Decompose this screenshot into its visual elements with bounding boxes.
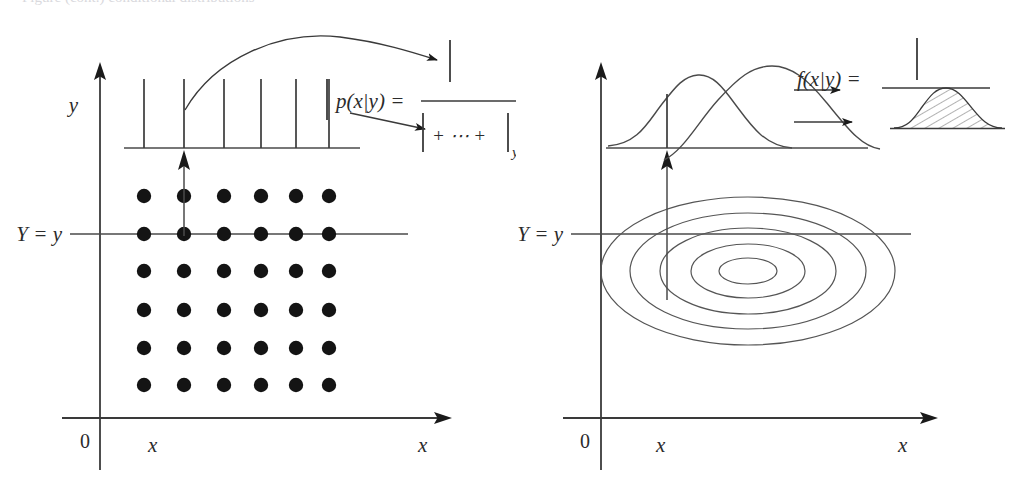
contour-level-3 <box>660 228 836 314</box>
formula-lhs-continuous: f(x|y) = <box>797 67 861 91</box>
conditioning-label-discrete: Y = y <box>16 222 62 246</box>
x-inner-label-discrete: x <box>147 433 158 457</box>
lift-arrow-continuous <box>661 150 673 300</box>
figure-root: Figure (cont.) conditional distributions… <box>0 0 1032 499</box>
contour-level-4 <box>630 213 866 329</box>
denominator-callout-discrete <box>350 113 425 129</box>
conditional-pmf-discrete <box>124 79 360 148</box>
formula-discrete: p(x|y) = + ⋯ + y <box>327 40 516 160</box>
contour-level-5 <box>601 197 895 345</box>
contours-continuous <box>601 197 895 345</box>
contour-level-2 <box>691 244 805 298</box>
x-axis-label-discrete: x <box>417 433 428 457</box>
denominator-middle-discrete: + ⋯ + <box>432 125 486 146</box>
conditioning-label-continuous: Y = y <box>517 222 563 246</box>
contour-level-1 <box>719 258 777 284</box>
x-axis-continuous <box>563 412 938 424</box>
origin-label-continuous: 0 <box>580 430 590 452</box>
panel-discrete: y 0 x x Y = y <box>0 0 516 499</box>
y-axis-label-discrete: y <box>67 93 79 117</box>
formula-lhs-discrete: p(x|y) = <box>334 89 404 113</box>
panel-continuous: 0 x x Y = y <box>516 0 1032 499</box>
y-axis-discrete <box>94 62 106 470</box>
origin-label-discrete: 0 <box>80 430 90 452</box>
dot-lattice-discrete <box>137 189 336 392</box>
x-axis-discrete <box>62 412 452 424</box>
x-inner-label-continuous: x <box>655 433 666 457</box>
marginal-bell-curve <box>608 75 792 148</box>
x-axis-label-continuous: x <box>897 433 908 457</box>
